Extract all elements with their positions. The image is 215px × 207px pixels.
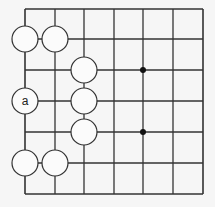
star-point-icon: [140, 129, 146, 135]
white-stone: [71, 57, 97, 83]
labeled-stone-a: a: [12, 88, 38, 114]
stone-icon: [12, 150, 38, 176]
stone-icon: [71, 119, 97, 145]
stone-icon: [71, 57, 97, 83]
white-stone: [71, 119, 97, 145]
white-stone: [71, 88, 97, 114]
stone-label: a: [22, 94, 29, 108]
white-stone: [12, 150, 38, 176]
white-stone: [42, 26, 68, 52]
stone-icon: [42, 150, 68, 176]
stone-icon: [12, 26, 38, 52]
white-stone: [42, 150, 68, 176]
go-board: a: [0, 0, 215, 207]
stone-icon: [71, 88, 97, 114]
white-stone: [12, 26, 38, 52]
star-point-icon: [140, 67, 146, 73]
stone-icon: [42, 26, 68, 52]
